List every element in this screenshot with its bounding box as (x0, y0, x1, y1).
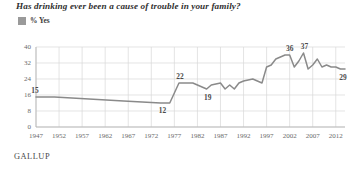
data-point-labels: 15122219363729 (31, 42, 347, 115)
data-point-label: 36 (286, 44, 294, 53)
svg-text:1952: 1952 (52, 132, 67, 140)
data-point-label: 12 (159, 106, 167, 115)
svg-text:32: 32 (24, 59, 32, 67)
plot-area: 0816243240 19471952195719621967197219771… (0, 0, 359, 171)
data-point-label: 19 (204, 93, 212, 102)
svg-text:1992: 1992 (237, 132, 252, 140)
svg-text:1962: 1962 (98, 132, 113, 140)
svg-text:1987: 1987 (213, 132, 228, 140)
gallup-line-chart: Has drinking ever been a cause of troubl… (0, 0, 359, 171)
gallup-brand: GALLUP (14, 152, 50, 161)
grid-lines (36, 47, 345, 127)
svg-text:1972: 1972 (144, 132, 159, 140)
data-point-label: 29 (339, 73, 347, 82)
svg-text:40: 40 (24, 43, 32, 51)
svg-text:1982: 1982 (190, 132, 205, 140)
svg-text:2007: 2007 (306, 132, 321, 140)
data-point-label: 15 (31, 86, 39, 95)
data-point-label: 22 (176, 72, 184, 81)
svg-text:1997: 1997 (260, 132, 275, 140)
svg-text:24: 24 (24, 75, 32, 83)
svg-text:2002: 2002 (283, 132, 298, 140)
svg-text:1977: 1977 (167, 132, 182, 140)
svg-text:0: 0 (28, 123, 32, 131)
svg-text:8: 8 (28, 107, 32, 115)
svg-text:1947: 1947 (29, 132, 44, 140)
svg-text:2012: 2012 (329, 132, 344, 140)
x-axis-labels: 1947195219571962196719721977198219871992… (29, 132, 343, 140)
svg-text:1957: 1957 (75, 132, 90, 140)
data-point-label: 37 (301, 42, 309, 51)
svg-text:1967: 1967 (121, 132, 136, 140)
